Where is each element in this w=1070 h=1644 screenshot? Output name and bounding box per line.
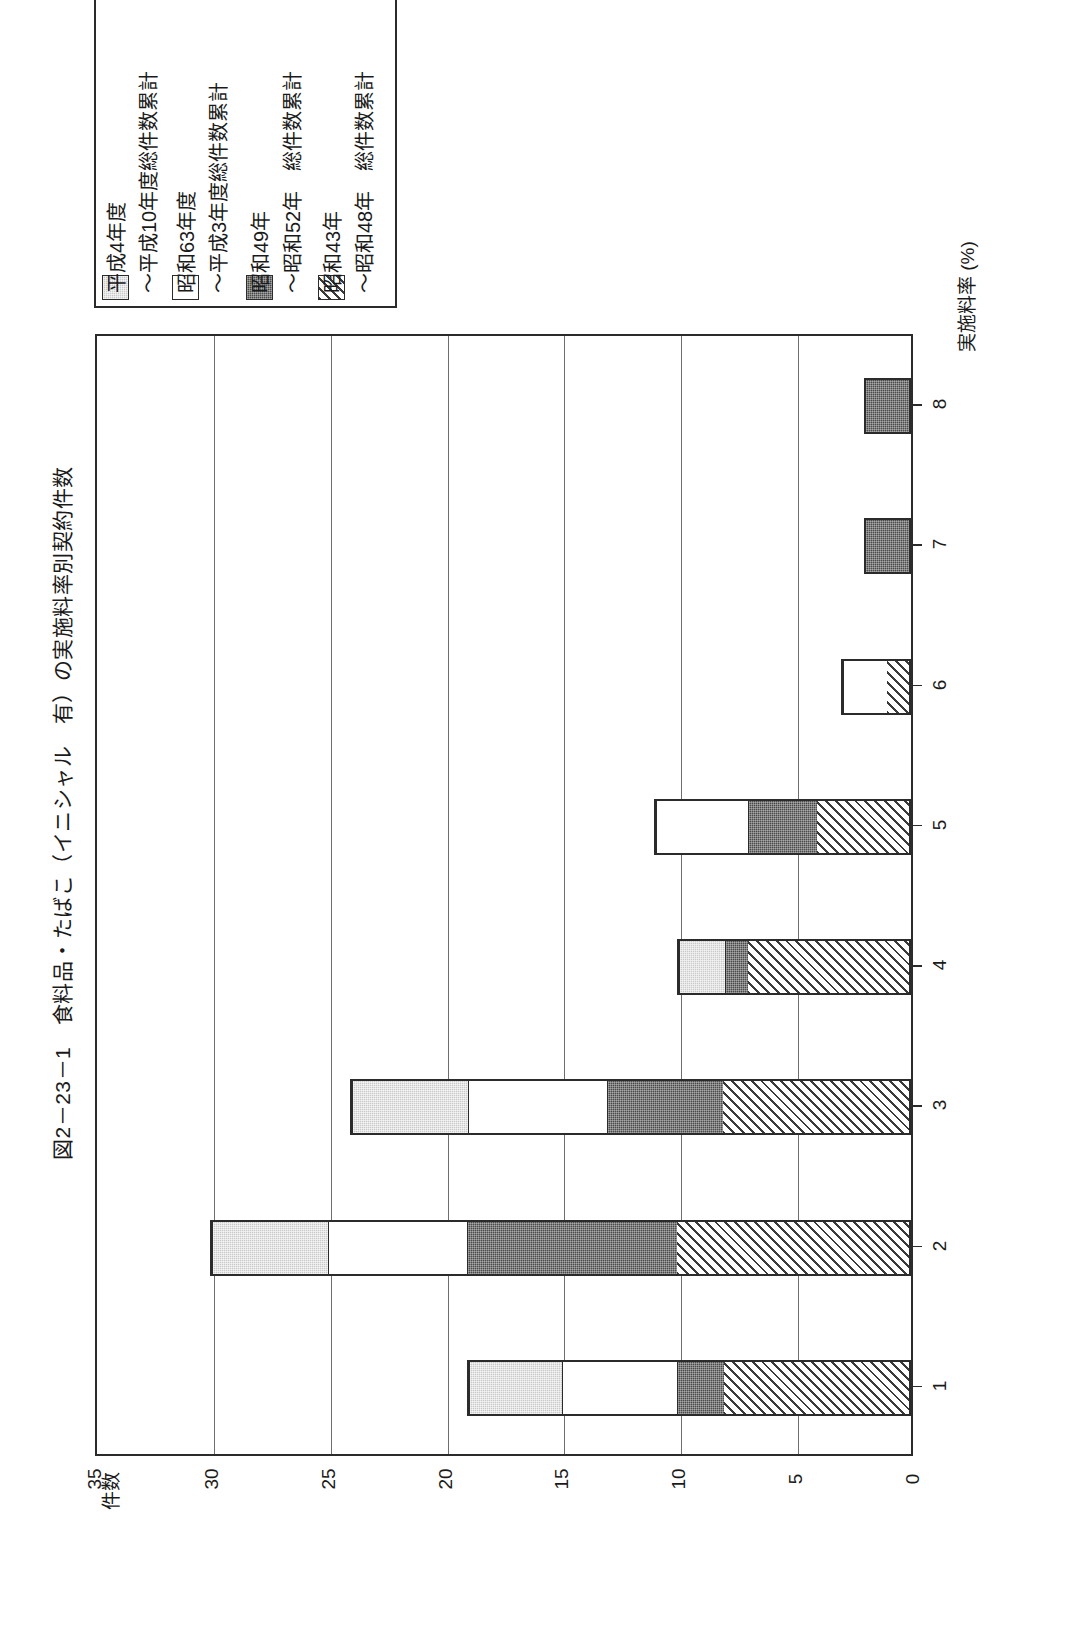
legend-label-line2: ～昭和52年 総件数累計 [283,268,303,293]
bar-segment [607,1081,723,1133]
axis-tick-mark [913,1246,922,1248]
bar-category-3 [350,1079,911,1135]
legend-label-line1: 昭和49年 [251,268,271,293]
value-axis-tick: 10 [668,1462,690,1496]
axis-tick-mark [913,1105,922,1107]
bar-segment [843,661,887,713]
bar-segment [562,1362,678,1414]
gridline [331,336,332,1454]
category-axis-title: 実施料率 (%) [952,241,979,352]
bar-category-8 [864,378,911,434]
value-axis-tick: 5 [785,1462,807,1496]
bar-segment [866,520,909,572]
bar-category-4 [677,939,911,995]
bar-segment [677,1222,909,1274]
bar-category-1 [467,1360,911,1416]
legend-label-line1: 昭和43年 [323,268,343,293]
bar-segment [723,1081,909,1133]
value-axis-tick: 25 [318,1462,340,1496]
figure-title: 図2－23－1 食料品・たばこ（イニシャル 有）の実施料率別契約件数 [46,466,76,1160]
bar-segment [748,941,909,993]
bar-segment [748,801,817,853]
value-axis-tick: 20 [435,1462,457,1496]
gridline [214,336,215,1454]
axis-tick-mark [913,685,922,687]
category-axis-tick: 8 [929,391,949,417]
category-axis-tick: 4 [929,952,949,978]
legend-item: 昭和63年度～平成3年度総件数累計 [172,275,199,300]
legend-label-line2: ～昭和48年 総件数累計 [355,268,375,293]
legend-label-line1: 昭和63年度 [177,268,197,293]
bar-segment [725,941,748,993]
legend-label-line2: ～平成10年度総件数累計 [139,268,159,293]
plot-area [95,334,913,1456]
legend: 平成4年度～平成10年度総件数累計昭和63年度～平成3年度総件数累計昭和49年～… [94,0,397,308]
value-axis-tick: 35 [84,1462,106,1496]
bar-segment [328,1222,467,1274]
bar-segment [679,941,725,993]
bar-segment [468,1081,607,1133]
axis-tick-mark [913,404,922,406]
bar-category-6 [841,659,911,715]
axis-tick-mark [913,544,922,546]
gridline [798,336,799,1454]
axis-tick-mark [913,965,922,967]
gridline [564,336,565,1454]
category-axis-tick: 6 [929,672,949,698]
bar-category-5 [654,799,911,855]
legend-item: 昭和49年～昭和52年 総件数累計 [246,275,273,300]
bar-segment [212,1222,328,1274]
bar-category-7 [864,518,911,574]
category-axis-tick: 5 [929,812,949,838]
category-axis-tick: 1 [929,1373,949,1399]
legend-label-line2: ～平成3年度総件数累計 [209,268,229,293]
bar-segment [724,1362,909,1414]
legend-item: 昭和43年～昭和48年 総件数累計 [318,275,345,300]
value-axis-tick: 15 [551,1462,573,1496]
gridline [681,336,682,1454]
axis-tick-mark [913,1386,922,1388]
category-axis-tick: 3 [929,1092,949,1118]
value-axis-tick: 30 [201,1462,223,1496]
legend-item: 平成4年度～平成10年度総件数累計 [102,275,129,300]
bar-segment [467,1222,676,1274]
category-axis-tick: 2 [929,1233,949,1259]
bar-category-2 [210,1220,911,1276]
bar-segment [469,1362,562,1414]
bar-segment [866,380,909,432]
legend-label-line1: 平成4年度 [107,268,127,293]
category-axis-tick: 7 [929,531,949,557]
bar-segment [817,801,909,853]
bar-segment [677,1362,723,1414]
gridline [448,336,449,1454]
bar-segment [352,1081,468,1133]
bar-segment [887,661,909,713]
value-axis-tick: 0 [902,1462,924,1496]
axis-tick-mark [913,825,922,827]
bar-segment [656,801,748,853]
